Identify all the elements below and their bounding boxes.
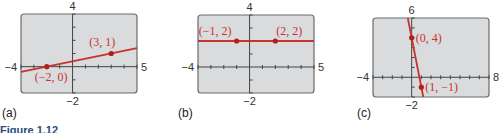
graph-b-point (273, 38, 278, 43)
graph-a-point (44, 64, 49, 69)
graph-c-point-label: (0, 4) (416, 31, 442, 45)
panel-label-b: (b) (178, 106, 193, 120)
graph-a-point (109, 51, 114, 56)
graph-a-ymax-label: 4 (69, 0, 75, 12)
graphs-canvas: 4−2−45(−2, 0)(3, 1)4−2−45(−1, 2)(2, 2)6−… (0, 0, 499, 133)
graph-c-ymax-label: 6 (409, 4, 415, 16)
graph-b-ymin-label: −2 (243, 95, 256, 107)
graph-a-point-label: (3, 1) (89, 35, 115, 49)
panel-label-c: (c) (357, 106, 371, 120)
graph-c-xmax-label: 8 (493, 71, 499, 83)
graph-c-ymin-label: −2 (405, 99, 418, 111)
graph-a-xmax-label: 5 (141, 61, 147, 73)
graph-c-xmin-label: −4 (356, 71, 369, 83)
graph-b-point (234, 38, 239, 43)
graph-b-xmin-label: −4 (181, 61, 194, 73)
panel-label-a: (a) (2, 106, 17, 120)
graph-a-ymin-label: −2 (66, 95, 79, 107)
graph-c-point-label: (1, −1) (425, 80, 458, 94)
graph-b-point-label: (2, 2) (276, 24, 302, 38)
figure-caption: Figure 1.12 (0, 124, 58, 133)
graph-c-point (409, 35, 414, 40)
graph-a-point-label: (−2, 0) (35, 70, 68, 84)
graph-a-xmin-label: −4 (4, 61, 17, 73)
graph-b-ymax-label: 4 (246, 1, 252, 13)
graph-c-point (419, 85, 424, 90)
graph-b-xmax-label: 5 (318, 61, 324, 73)
graph-b-point-label: (−1, 2) (199, 24, 232, 38)
